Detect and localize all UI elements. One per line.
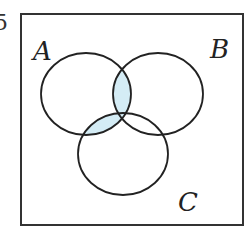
set-b-label: B (209, 34, 229, 64)
edge-fragment-text: 5 (0, 10, 8, 35)
set-a-label: A (31, 36, 52, 66)
venn-diagram: 5 A B C (0, 0, 248, 229)
set-c-label: C (178, 187, 198, 217)
